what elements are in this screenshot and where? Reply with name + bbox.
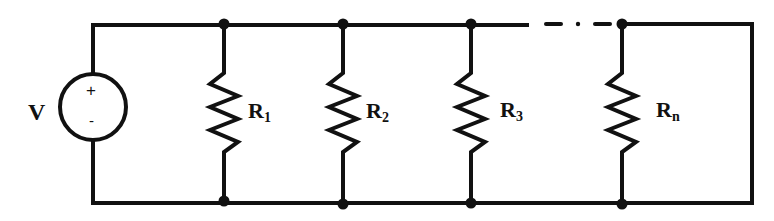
ellipsis-dot (576, 22, 580, 26)
left-wire-top (93, 25, 527, 74)
junction-node-icon (617, 199, 628, 210)
resistor-label-rn: Rn (656, 99, 680, 124)
junction-node-icon (338, 199, 349, 210)
resistor-label-subscript: 3 (516, 109, 523, 124)
plus-sign-icon: + (86, 82, 96, 99)
circuit-diagram: V + - R1 R2 R3 Rn (0, 0, 774, 221)
junction-node-icon (219, 196, 230, 207)
junction-node-icon (466, 19, 477, 30)
junction-node-icon (338, 19, 349, 30)
resistor-label-r3: R3 (500, 99, 523, 124)
resistor-rn-icon (608, 24, 636, 203)
resistor-label-text: R (656, 97, 672, 122)
resistor-r3-icon (457, 25, 485, 203)
resistor-r2-icon (329, 25, 357, 203)
left-wire-bottom (93, 140, 752, 203)
resistor-label-subscript: n (672, 109, 680, 124)
resistor-label-text: R (366, 98, 382, 123)
resistor-label-text: R (500, 97, 516, 122)
minus-sign-icon: - (89, 113, 94, 128)
right-wire (622, 24, 752, 203)
resistor-label-subscript: 1 (264, 110, 271, 125)
junction-node-icon (617, 19, 628, 30)
resistor-label-r2: R2 (366, 100, 389, 125)
source-label: V (28, 100, 45, 124)
resistor-label-r1: R1 (248, 100, 271, 125)
junction-node-icon (466, 198, 477, 209)
junction-node-icon (219, 19, 230, 30)
resistor-label-subscript: 2 (382, 110, 389, 125)
resistor-label-text: R (248, 98, 264, 123)
resistor-r1-icon (210, 25, 238, 203)
